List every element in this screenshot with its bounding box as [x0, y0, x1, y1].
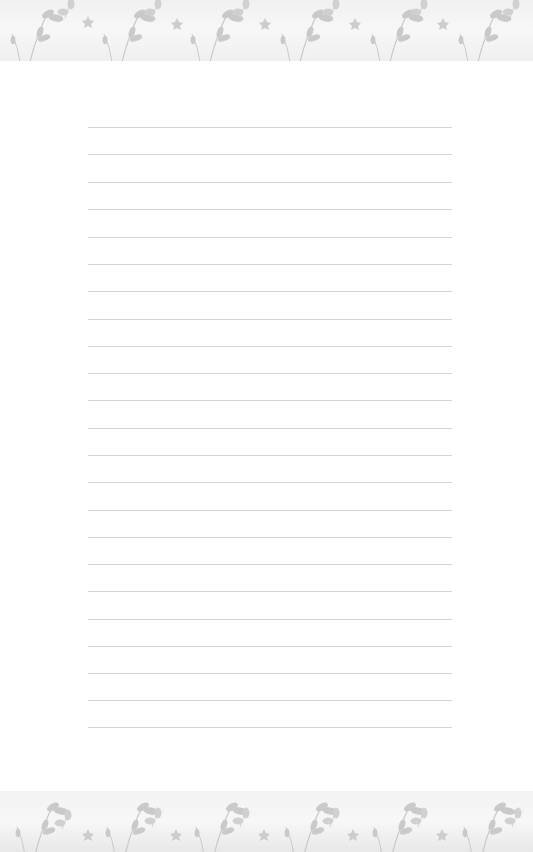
ruled-line — [88, 154, 452, 155]
ruled-line — [88, 455, 452, 456]
ruled-line — [88, 510, 452, 511]
ruled-line — [88, 619, 452, 620]
ruled-line — [88, 264, 452, 265]
ruled-line — [88, 727, 452, 728]
ruled-line — [88, 182, 452, 183]
ruled-line — [88, 237, 452, 238]
ruled-line — [88, 700, 452, 701]
ruled-line — [88, 591, 452, 592]
ruled-line — [88, 291, 452, 292]
ruled-line — [88, 346, 452, 347]
ruled-line — [88, 373, 452, 374]
ruled-line — [88, 209, 452, 210]
ruled-line — [88, 537, 452, 538]
floral-pattern-icon — [0, 791, 533, 852]
ruled-line — [88, 673, 452, 674]
ruled-line — [88, 482, 452, 483]
ruled-line — [88, 127, 452, 128]
ruled-line — [88, 319, 452, 320]
ruled-line — [88, 646, 452, 647]
ruled-line — [88, 428, 452, 429]
writing-lines — [88, 0, 452, 852]
bottom-floral-border — [0, 791, 533, 852]
ruled-line — [88, 564, 452, 565]
ruled-line — [88, 400, 452, 401]
